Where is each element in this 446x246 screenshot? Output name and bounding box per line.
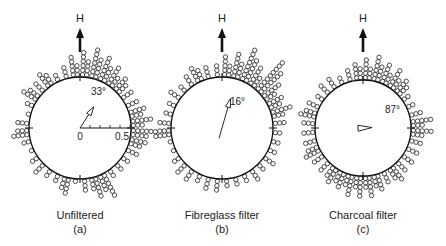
data-dot [85, 73, 89, 77]
north-arrowhead-icon [359, 28, 367, 38]
data-dot [154, 134, 158, 138]
data-dot [367, 76, 371, 80]
data-dot [223, 55, 227, 59]
data-dot [225, 183, 229, 187]
data-dot [347, 73, 351, 77]
data-dot [240, 62, 244, 66]
data-dot [358, 181, 362, 185]
data-dot [99, 194, 103, 198]
data-dot [368, 185, 372, 189]
data-dot [137, 144, 141, 148]
data-dot [223, 64, 227, 68]
data-dot [94, 56, 98, 60]
data-dot [364, 67, 368, 71]
data-dot [288, 105, 292, 109]
data-dot [224, 179, 228, 183]
mean-angle-label: 87° [385, 104, 400, 115]
data-dot [276, 83, 280, 87]
data-dot [215, 183, 219, 187]
data-dot [304, 141, 308, 145]
data-dot [414, 140, 418, 144]
data-dot [233, 69, 237, 73]
data-dot [272, 150, 276, 154]
data-dot [357, 194, 361, 198]
data-dot [378, 69, 382, 73]
data-dot [12, 134, 16, 138]
data-dot [158, 129, 162, 133]
data-dot [424, 118, 428, 122]
data-dot [345, 69, 349, 73]
data-dot [398, 69, 402, 73]
data-dot [358, 67, 362, 71]
data-dot [257, 76, 261, 80]
data-dot [306, 121, 310, 125]
data-dot [277, 131, 281, 135]
data-dot [420, 118, 424, 122]
data-dot [162, 129, 166, 133]
data-dot [308, 110, 312, 114]
data-dot [376, 59, 380, 63]
data-dot [92, 187, 96, 191]
data-dot [140, 129, 144, 133]
data-dot [272, 92, 276, 96]
data-dot [81, 50, 85, 54]
data-dot [169, 90, 173, 94]
data-dot [98, 62, 102, 66]
data-dot [135, 133, 139, 137]
data-dot [25, 101, 29, 105]
data-dot [63, 70, 67, 74]
data-dot [140, 134, 144, 138]
data-dot [158, 120, 162, 124]
data-dot [272, 114, 276, 118]
data-dot [375, 64, 379, 68]
data-dot [346, 192, 350, 196]
data-dot [388, 73, 392, 77]
data-dot [278, 72, 282, 76]
data-dot [71, 68, 75, 72]
data-dot [189, 66, 193, 70]
data-dot [24, 128, 28, 132]
data-dot [312, 160, 316, 164]
data-dot [196, 68, 200, 72]
data-dot [148, 117, 152, 121]
north-arrowhead-icon [218, 28, 226, 38]
data-dot [134, 139, 138, 143]
data-dot [358, 71, 362, 75]
data-dot [354, 71, 358, 75]
data-dot [112, 193, 116, 197]
data-dot [244, 178, 248, 182]
data-dot [354, 180, 358, 184]
data-dot [22, 90, 26, 94]
caption-title: Fibreglass filter [152, 208, 292, 222]
data-dot [368, 71, 372, 75]
data-dot [20, 121, 24, 125]
data-dot [215, 73, 219, 77]
data-dot [93, 61, 97, 65]
data-dot [273, 130, 277, 134]
data-dot [304, 108, 308, 112]
data-dot [420, 133, 424, 137]
data-dot [364, 185, 368, 189]
data-dot [276, 113, 280, 117]
data-dot [227, 73, 231, 77]
data-dot [284, 106, 288, 110]
data-dot [91, 69, 95, 73]
data-dot [406, 94, 410, 98]
data-dot [184, 75, 188, 79]
data-dot [167, 101, 171, 105]
data-dot [336, 185, 340, 189]
data-dot [205, 182, 209, 186]
data-dot [82, 179, 86, 183]
data-dot [418, 110, 422, 114]
data-dot [380, 65, 384, 69]
data-dot [302, 131, 306, 135]
caption-title: Unfiltered [10, 208, 150, 222]
data-dot [16, 134, 20, 138]
data-dot [53, 178, 57, 182]
data-dot [184, 177, 188, 181]
data-dot [416, 123, 420, 127]
data-dot [310, 121, 314, 125]
data-dot [204, 186, 208, 190]
data-dot [62, 66, 66, 70]
data-dot [34, 170, 38, 174]
